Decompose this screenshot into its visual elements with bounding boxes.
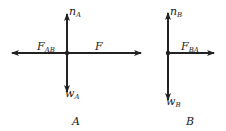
label-f-ba: FBA [181,41,199,54]
free-body-diagrams [0,0,226,131]
label-n-a: nA [69,6,81,19]
label-f: F [95,41,103,52]
point-b [166,51,170,55]
label-n-b: nB [170,6,182,19]
diagram-b [166,13,214,100]
label-w-a: wA [65,88,79,101]
label-f-ab: FAB [37,41,55,54]
diagram-a [12,14,141,92]
caption-b: B [186,116,194,127]
point-a [65,51,69,55]
caption-a: A [72,116,80,127]
label-w-b: wB [166,96,181,109]
